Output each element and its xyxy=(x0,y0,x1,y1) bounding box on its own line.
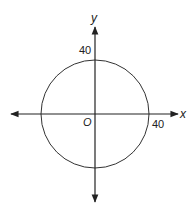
y-intercept-label: 40 xyxy=(79,44,91,56)
x-axis-label: x xyxy=(179,107,187,121)
coordinate-plane: y x O 40 40 xyxy=(0,0,191,211)
origin-label: O xyxy=(83,116,92,128)
y-axis-label: y xyxy=(90,11,98,25)
x-intercept-label: 40 xyxy=(152,118,164,130)
